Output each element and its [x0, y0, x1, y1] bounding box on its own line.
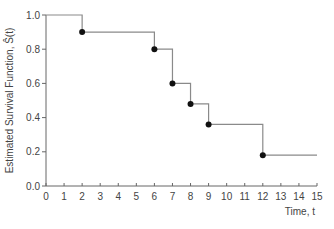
survival-step-line	[46, 15, 317, 155]
x-tick-label: 12	[257, 191, 269, 202]
event-point	[79, 29, 85, 35]
x-tick-label: 4	[115, 191, 121, 202]
y-axis-label: Estimated Survival Function, Ŝ(t)	[3, 28, 15, 174]
x-tick-label: 14	[293, 191, 305, 202]
event-point	[169, 80, 175, 86]
chart-canvas: 0.00.20.40.60.81.00123456789101112131415…	[0, 0, 334, 229]
y-tick-label: 0.2	[26, 146, 40, 157]
event-point	[151, 46, 157, 52]
x-tick-label: 1	[61, 191, 67, 202]
survival-chart: 0.00.20.40.60.81.00123456789101112131415…	[0, 0, 334, 229]
x-tick-label: 7	[170, 191, 176, 202]
y-tick-label: 0.8	[26, 44, 40, 55]
event-point	[260, 152, 266, 158]
x-tick-label: 0	[43, 191, 49, 202]
x-tick-label: 8	[188, 191, 194, 202]
x-tick-label: 3	[97, 191, 103, 202]
x-tick-label: 6	[152, 191, 158, 202]
event-point	[206, 121, 212, 127]
x-tick-label: 5	[134, 191, 140, 202]
event-point	[188, 101, 194, 107]
y-tick-label: 0.4	[26, 112, 40, 123]
y-tick-label: 0.6	[26, 78, 40, 89]
x-axis-label: Time, t	[285, 206, 315, 217]
x-tick-label: 2	[79, 191, 85, 202]
y-tick-label: 1.0	[26, 10, 40, 21]
y-tick-label: 0.0	[26, 181, 40, 192]
x-tick-label: 10	[221, 191, 233, 202]
x-tick-label: 11	[240, 191, 251, 202]
x-tick-label: 13	[275, 191, 287, 202]
x-tick-label: 9	[206, 191, 212, 202]
x-tick-label: 15	[311, 191, 323, 202]
